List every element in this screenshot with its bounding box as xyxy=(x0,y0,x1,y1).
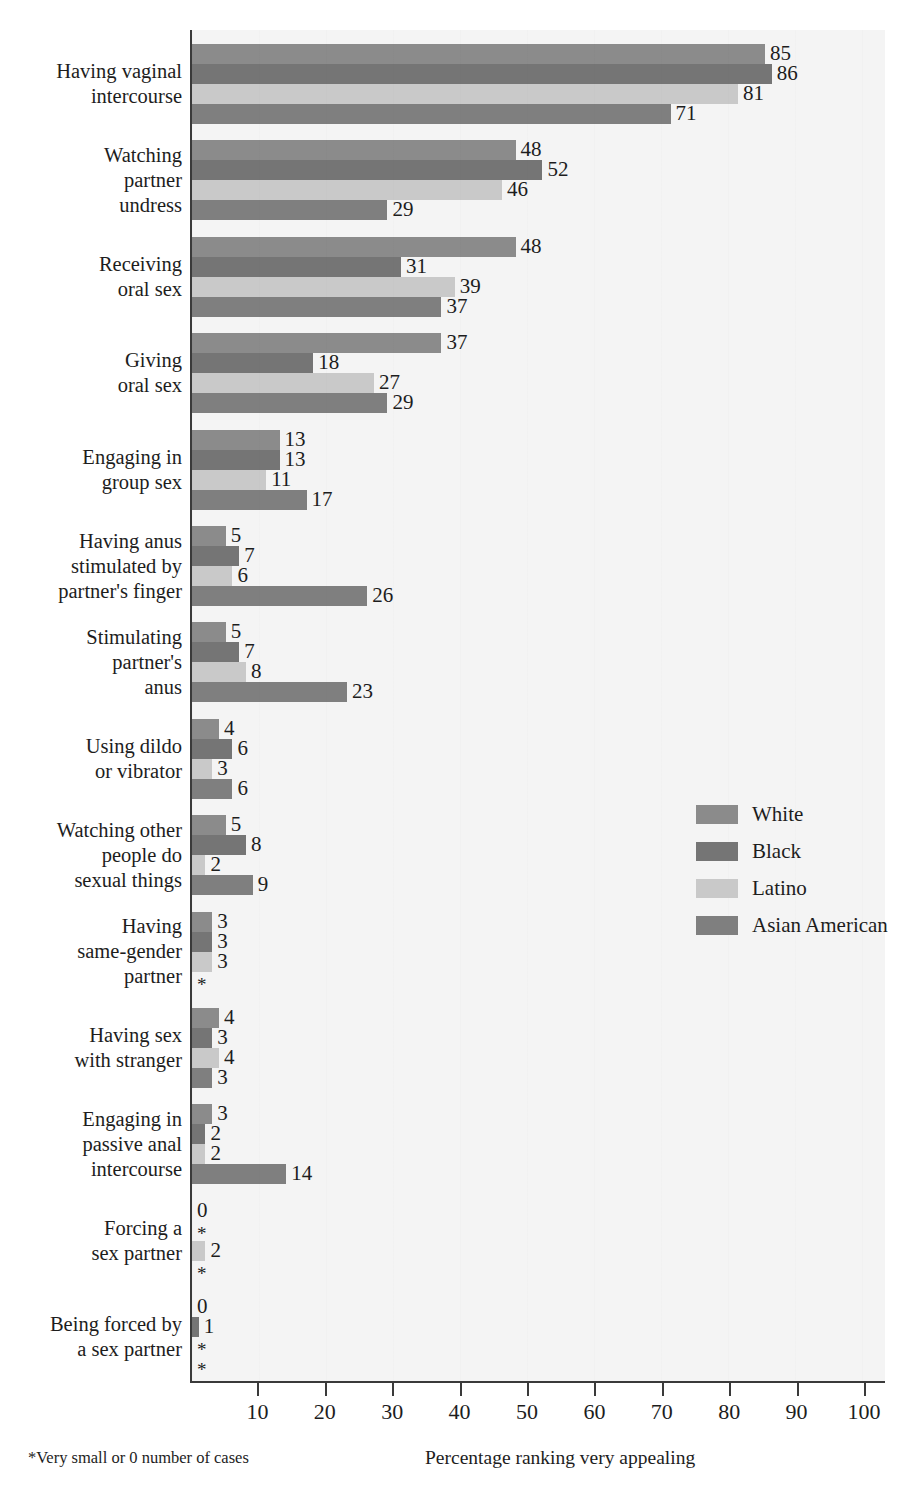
bar xyxy=(192,1048,219,1068)
x-axis-tick-label: 30 xyxy=(381,1399,403,1425)
bar-row: 3 xyxy=(192,1028,885,1048)
bar-row: 4 xyxy=(192,1008,885,1028)
x-axis-tick xyxy=(864,1383,866,1396)
legend-label-latino: Latino xyxy=(752,878,807,899)
bar xyxy=(192,64,772,84)
bar-row: 26 xyxy=(192,586,885,606)
bar xyxy=(192,932,212,952)
bar xyxy=(192,373,374,393)
bar-value-label: 37 xyxy=(441,296,467,317)
bar-row: * xyxy=(192,1261,885,1281)
bar-row: 0 xyxy=(192,1297,885,1317)
bar-value-label: 31 xyxy=(401,256,427,277)
legend-swatch-asian-american xyxy=(696,916,738,935)
bar-value-label: 5 xyxy=(226,814,242,835)
bar-row: 18 xyxy=(192,353,885,373)
bar-value-label: * xyxy=(192,973,207,994)
bar xyxy=(192,1164,286,1184)
bar-row: 3 xyxy=(192,1068,885,1088)
bar-value-label: 23 xyxy=(347,681,373,702)
category-group: Stimulating partner's anus57823 xyxy=(192,622,885,702)
bar xyxy=(192,1241,205,1261)
bar-row: 2 xyxy=(192,1124,885,1144)
x-axis-tick xyxy=(325,1383,327,1396)
category-label: Having same-gender partner xyxy=(0,914,182,989)
bar-row: 27 xyxy=(192,373,885,393)
bar-value-label: 2 xyxy=(205,1240,221,1261)
category-label: Giving oral sex xyxy=(0,348,182,398)
bar xyxy=(192,759,212,779)
bar-row: 5 xyxy=(192,622,885,642)
legend-swatch-latino xyxy=(696,879,738,898)
bar-row: 13 xyxy=(192,450,885,470)
bar-value-label: 29 xyxy=(387,199,413,220)
x-axis-tick-label: 20 xyxy=(314,1399,336,1425)
bar-value-label: 6 xyxy=(232,565,248,586)
bar-row: 3 xyxy=(192,759,885,779)
bar xyxy=(192,779,232,799)
category-label: Watching partner undress xyxy=(0,143,182,218)
bar-value-label: 18 xyxy=(313,352,339,373)
bar-row: 7 xyxy=(192,546,885,566)
x-axis-tick-label: 60 xyxy=(583,1399,605,1425)
bar xyxy=(192,200,387,220)
x-axis-tick xyxy=(662,1383,664,1396)
legend-swatch-black xyxy=(696,842,738,861)
bar-value-label: 5 xyxy=(226,525,242,546)
bar-row: 48 xyxy=(192,140,885,160)
bar xyxy=(192,952,212,972)
category-group: Watching partner undress48524629 xyxy=(192,140,885,220)
x-axis-tick xyxy=(460,1383,462,1396)
bar-row: 3 xyxy=(192,952,885,972)
legend-label-white: White xyxy=(752,804,803,825)
bar-row: 29 xyxy=(192,200,885,220)
bar-value-label: 0 xyxy=(192,1200,208,1221)
category-group: Engaging in passive anal intercourse3221… xyxy=(192,1104,885,1184)
bar-value-label: 3 xyxy=(212,758,228,779)
category-label: Forcing a sex partner xyxy=(0,1216,182,1266)
chart-figure: Having vaginal intercourse85868171Watchi… xyxy=(0,0,924,1495)
category-label: Receiving oral sex xyxy=(0,252,182,302)
bar-row: 46 xyxy=(192,180,885,200)
bar xyxy=(192,333,441,353)
category-group: Having vaginal intercourse85868171 xyxy=(192,44,885,124)
category-label: Engaging in passive anal intercourse xyxy=(0,1107,182,1182)
bar-value-label: 48 xyxy=(516,236,542,257)
bar xyxy=(192,1144,205,1164)
bar-row: 6 xyxy=(192,779,885,799)
bar-value-label: 48 xyxy=(516,139,542,160)
bar-row: 6 xyxy=(192,739,885,759)
bar-value-label: * xyxy=(192,1262,207,1283)
bar-row: 37 xyxy=(192,333,885,353)
bar xyxy=(192,140,516,160)
bar-row: 1 xyxy=(192,1317,885,1337)
bar-value-label: 11 xyxy=(266,469,291,490)
legend-item-black: Black xyxy=(696,837,916,866)
category-label: Having vaginal intercourse xyxy=(0,59,182,109)
bar-value-label: 52 xyxy=(542,159,568,180)
bar-value-label: 5 xyxy=(226,621,242,642)
bar xyxy=(192,912,212,932)
bar xyxy=(192,470,266,490)
bar xyxy=(192,526,226,546)
bar-value-label: 9 xyxy=(253,874,269,895)
bar xyxy=(192,875,253,895)
bar-row: 7 xyxy=(192,642,885,662)
category-label: Engaging in group sex xyxy=(0,445,182,495)
bar-value-label: 2 xyxy=(205,854,221,875)
bar xyxy=(192,1028,212,1048)
bar-value-label: 17 xyxy=(307,489,333,510)
bar xyxy=(192,1317,199,1337)
x-axis-tick xyxy=(257,1383,259,1396)
bar xyxy=(192,1124,205,1144)
bar-value-label: 86 xyxy=(772,63,798,84)
x-axis-tick-label: 10 xyxy=(246,1399,268,1425)
bar-row: * xyxy=(192,1337,885,1357)
category-label: Having sex with stranger xyxy=(0,1023,182,1073)
bar xyxy=(192,1104,212,1124)
bar-row: 8 xyxy=(192,662,885,682)
bar-row: 4 xyxy=(192,719,885,739)
x-axis-label: Percentage ranking very appealing xyxy=(425,1446,695,1470)
bar-value-label: 3 xyxy=(212,951,228,972)
bar-row: 37 xyxy=(192,297,885,317)
